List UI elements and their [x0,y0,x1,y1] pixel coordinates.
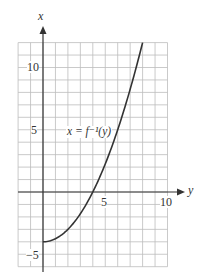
horizontal-axis-arrow-icon [177,189,185,196]
horizontal-axis-label: y [188,184,193,196]
tick-label-y-10: 10 [27,61,39,73]
grid-lines [18,43,167,267]
tick-label-y-5: 5 [31,124,37,136]
tick-label-x-10: 10 [160,196,172,208]
tick-label-y-neg5: −5 [26,249,39,261]
vertical-axis-label: x [38,10,43,22]
tick-label-x-5: 5 [101,196,107,208]
chart-plot [0,0,205,276]
vertical-axis-arrow-icon [40,26,47,34]
curve-label: x = f⁻¹(y) [66,126,112,138]
